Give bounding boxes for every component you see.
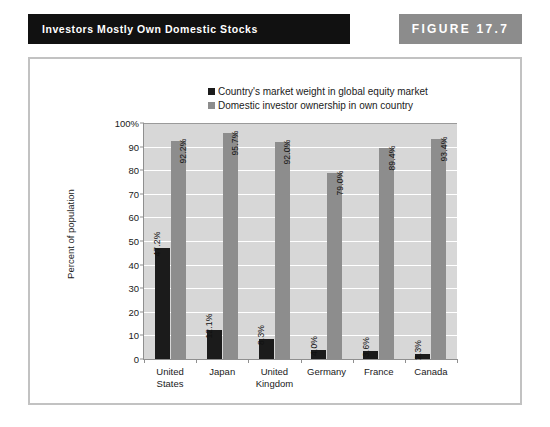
figure-title-bar: Investors Mostly Own Domestic Stocks — [28, 14, 350, 44]
y-axis-tick-label: 20 — [128, 306, 139, 317]
y-axis-tick-label: 60 — [128, 212, 139, 223]
bar-group: 12.1%95.7% — [196, 123, 248, 359]
bar-value-label: 12.1% — [204, 314, 214, 339]
bar-value-label: 2.3% — [413, 339, 423, 359]
x-axis-tick-mark — [144, 359, 145, 363]
bar-series-0: 2.3% — [415, 354, 430, 359]
bar-group: 47.2%92.2% — [144, 123, 196, 359]
y-axis-tick-label: 100% — [115, 118, 139, 129]
bar-group: 4.0%79.0% — [301, 123, 353, 359]
bar-series-0: 12.1% — [207, 330, 222, 359]
bar-value-label: 79.0% — [335, 170, 345, 195]
bar-value-label: 92.0% — [282, 139, 292, 164]
bar-series-1: 92.0% — [275, 142, 290, 359]
bar-series-0: 47.2% — [155, 248, 170, 359]
x-axis-category-line: States — [156, 378, 183, 390]
y-axis-tick-label: 50 — [128, 236, 139, 247]
x-axis-tick-mark — [248, 359, 249, 363]
chart-plot-wrapper: Percent of population 100%90807060504030… — [30, 59, 520, 403]
figure-card: Country's market weight in global equity… — [28, 57, 522, 405]
y-axis-tick-label: 40 — [128, 259, 139, 270]
bar-group: 8.3%92.0% — [248, 123, 300, 359]
x-axis-category-line: United — [256, 366, 294, 378]
x-axis-category-line: Kingdom — [256, 378, 294, 390]
bar-value-label: 3.6% — [361, 336, 371, 356]
bar-series-1: 93.4% — [431, 139, 446, 359]
figure-number-label: FIGURE 17.7 — [399, 22, 522, 36]
x-axis-tick-mark — [457, 359, 458, 363]
x-axis-category-line: Japan — [209, 366, 235, 378]
y-axis-tick-label: 30 — [128, 283, 139, 294]
y-axis-tick-label: 10 — [128, 330, 139, 341]
bar-group: 2.3%93.4% — [405, 123, 457, 359]
chart-plot-area: 100%908070605040302010047.2%92.2%UnitedS… — [143, 123, 457, 360]
bar-series-1: 89.4% — [379, 148, 394, 359]
bar-value-label: 93.4% — [439, 136, 449, 161]
bar-series-0: 4.0% — [311, 350, 326, 359]
page-title: Investors Mostly Own Domestic Stocks — [42, 23, 258, 35]
bar-value-label: 95.7% — [230, 131, 240, 156]
figure-number-box: FIGURE 17.7 — [399, 14, 522, 44]
x-axis-tick-mark — [301, 359, 302, 363]
figure-header-band: Investors Mostly Own Domestic Stocks FIG… — [28, 14, 522, 44]
bar-value-label: 89.4% — [387, 145, 397, 170]
x-axis-category-label: Germany — [307, 366, 346, 378]
bar-value-label: 8.3% — [256, 325, 266, 345]
x-axis-category-label: Japan — [209, 366, 235, 378]
y-axis-tick-label: 70 — [128, 188, 139, 199]
y-axis-tick-label: 0 — [134, 354, 139, 365]
x-axis-tick-mark — [405, 359, 406, 363]
x-axis-category-label: Canada — [414, 366, 447, 378]
x-axis-category-label: France — [364, 366, 394, 378]
x-axis-category-line: France — [364, 366, 394, 378]
y-axis-tick-label: 80 — [128, 165, 139, 176]
x-axis-tick-mark — [196, 359, 197, 363]
x-axis-category-line: Germany — [307, 366, 346, 378]
bar-series-0: 8.3% — [259, 339, 274, 359]
bar-value-label: 92.2% — [178, 139, 188, 164]
bar-series-0: 3.6% — [363, 351, 378, 359]
bar-value-label: 47.2% — [152, 231, 162, 256]
bar-series-1: 92.2% — [171, 141, 186, 359]
x-axis-category-line: Canada — [414, 366, 447, 378]
y-axis-label: Percent of population — [65, 189, 76, 279]
x-axis-category-label: UnitedKingdom — [256, 366, 294, 389]
y-axis-tick-label: 90 — [128, 141, 139, 152]
bar-group: 3.6%89.4% — [353, 123, 405, 359]
x-axis-tick-mark — [353, 359, 354, 363]
bar-series-1: 79.0% — [327, 173, 342, 359]
bar-series-1: 95.7% — [223, 133, 238, 359]
x-axis-category-label: UnitedStates — [156, 366, 183, 389]
bar-value-label: 4.0% — [309, 335, 319, 355]
x-axis-category-line: United — [156, 366, 183, 378]
